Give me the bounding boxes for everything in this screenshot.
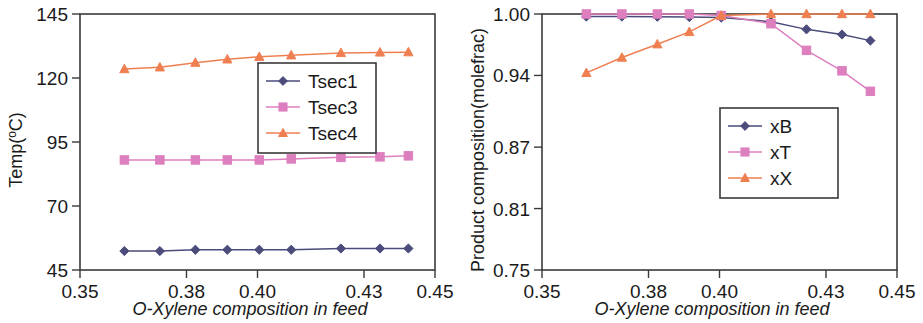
figure-container: 457095120145 0.350.380.400.430.45 Tsec1T…: [0, 0, 923, 323]
data-point-square: [255, 156, 263, 164]
data-point-square: [653, 10, 661, 18]
y-axis-title: Product composition(molefrac): [468, 28, 488, 272]
x-tick-label: 0.35: [524, 281, 561, 302]
y-tick-label: 0.81: [493, 199, 530, 220]
left-chart-svg: 457095120145 0.350.380.400.430.45 Tsec1T…: [0, 0, 462, 323]
y-tick-label: 120: [36, 68, 68, 89]
data-point-square: [287, 155, 295, 163]
chart-legend: xBxTxX: [720, 108, 838, 198]
y-tick-label: 1.00: [493, 4, 530, 25]
data-point-square: [223, 156, 231, 164]
y-axis-title: Temp(oC): [5, 112, 26, 188]
y-tick-label: 95: [47, 132, 68, 153]
chart-legend: Tsec1Tsec3Tsec4: [258, 63, 376, 153]
y-tick-label: 45: [47, 260, 68, 281]
data-point-square: [404, 152, 412, 160]
data-point-square: [741, 148, 749, 156]
y-axis-ticks: 457095120145: [36, 4, 80, 281]
data-point-square: [685, 10, 693, 18]
data-point-square: [120, 156, 128, 164]
legend-label: Tsec4: [308, 123, 358, 144]
data-point-square: [582, 10, 590, 18]
y-axis-title-tail: C): [6, 112, 26, 131]
y-tick-label: 0.75: [493, 260, 530, 281]
legend-label: xT: [770, 142, 792, 163]
data-point-square: [767, 19, 775, 27]
chart-panel-right: 0.750.810.870.941.00 0.350.380.400.430.4…: [462, 0, 923, 323]
legend-label: xB: [770, 116, 792, 137]
x-axis-title: O-Xylene composition in feed: [132, 299, 368, 319]
data-point-square: [191, 156, 199, 164]
right-chart-svg: 0.750.810.870.941.00 0.350.380.400.430.4…: [462, 0, 923, 323]
data-point-square: [866, 87, 874, 95]
x-axis-ticks: 0.350.380.400.430.45: [524, 270, 916, 302]
x-axis-ticks: 0.350.380.400.430.45: [62, 270, 454, 302]
x-tick-label: 0.35: [62, 281, 99, 302]
chart-panel-left: 457095120145 0.350.380.400.430.45 Tsec1T…: [0, 0, 462, 323]
data-point-square: [337, 153, 345, 161]
x-axis-title: O-Xylene composition in feed: [594, 299, 830, 319]
y-axis-ticks: 0.750.810.870.941.00: [493, 4, 542, 281]
data-point-square: [156, 156, 164, 164]
data-point-square: [802, 46, 810, 54]
data-point-square: [279, 103, 287, 111]
legend-label: xX: [770, 168, 793, 189]
data-point-square: [376, 153, 384, 161]
x-tick-label: 0.45: [879, 281, 916, 302]
data-point-square: [838, 67, 846, 75]
y-tick-label: 0.87: [493, 137, 530, 158]
y-axis-title-main: Temp(: [6, 138, 26, 188]
data-point-square: [618, 10, 626, 18]
legend-label: Tsec3: [308, 97, 358, 118]
x-tick-label: 0.45: [417, 281, 454, 302]
y-tick-label: 0.94: [493, 65, 530, 86]
legend-label: Tsec1: [308, 71, 358, 92]
y-tick-label: 145: [36, 4, 68, 25]
y-tick-label: 70: [47, 196, 68, 217]
